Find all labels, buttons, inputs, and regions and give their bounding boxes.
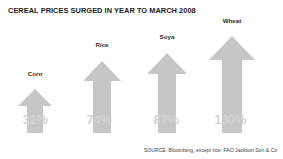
percent-label-rice: 74%: [76, 112, 122, 127]
chart-container: CEREAL PRICES SURGED IN YEAR TO MARCH 20…: [0, 0, 283, 159]
category-label-rice: Rice: [83, 41, 121, 48]
source-note: SOURCE: Bloomberg, except rice: FAO Jack…: [144, 147, 277, 153]
category-label-wheat: Wheat: [209, 17, 255, 24]
percent-label-soya: 87%: [142, 112, 190, 127]
percent-label-corn: 31%: [14, 112, 56, 127]
percent-label-wheat: 130%: [200, 112, 260, 127]
category-label-soya: Soya: [147, 33, 187, 40]
chart-title: CEREAL PRICES SURGED IN YEAR TO MARCH 20…: [8, 6, 196, 15]
category-label-corn: Corn: [18, 70, 52, 77]
